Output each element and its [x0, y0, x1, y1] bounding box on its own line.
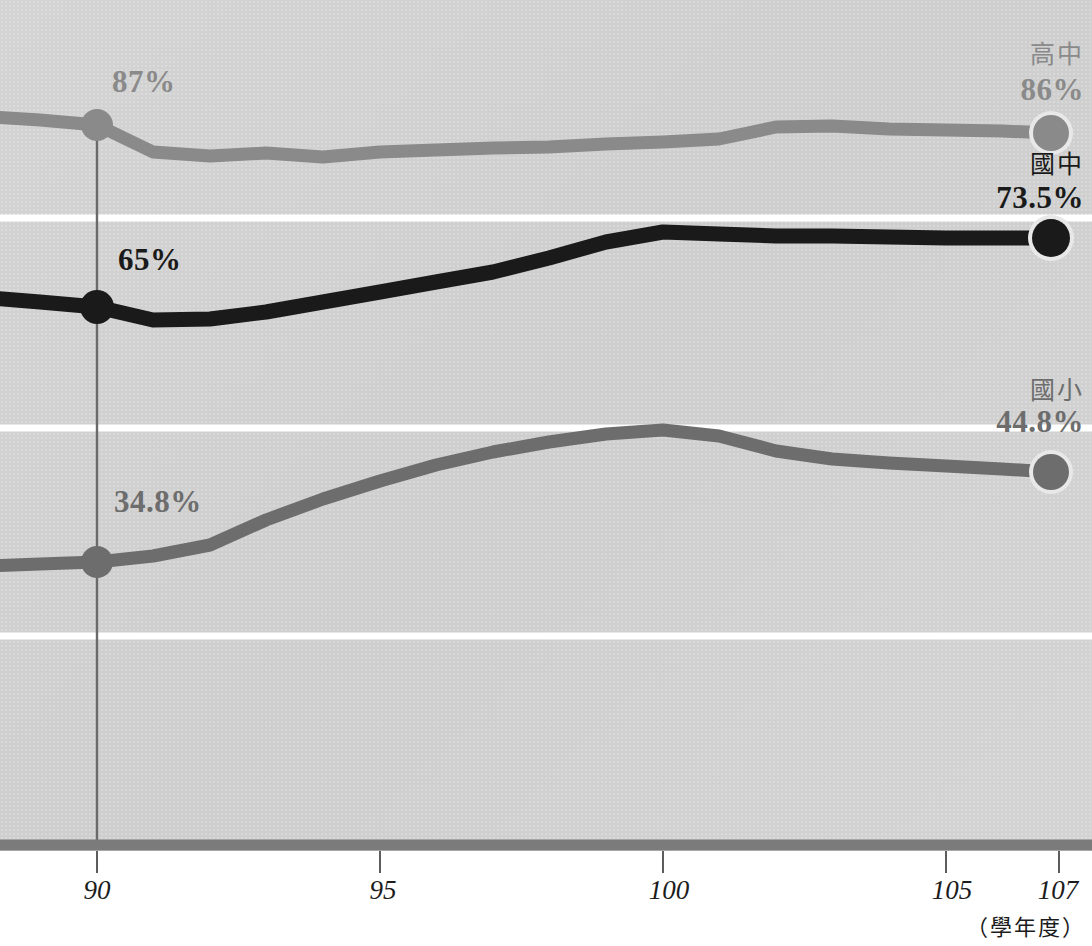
line-chart-svg: [0, 0, 1092, 851]
gridlines: [0, 218, 1092, 636]
x-tick-mark-107: [1058, 851, 1060, 873]
label-elementary-start-value: 34.8%: [114, 484, 202, 520]
x-tick-label-95: 95: [370, 875, 397, 906]
marker-junior-high-end[interactable]: [1032, 219, 1070, 257]
label-senior-high-series-name: 高中: [1030, 34, 1084, 70]
label-senior-high-end-value: 86%: [1021, 72, 1085, 108]
label-junior-high-end-value: 73.5%: [996, 180, 1084, 216]
label-elementary-end-value: 44.8%: [996, 404, 1084, 440]
marker-senior-high-start[interactable]: [81, 109, 113, 141]
x-tick-label-90: 90: [84, 875, 111, 906]
marker-elementary-end[interactable]: [1033, 454, 1069, 490]
label-junior-high-start-value: 65%: [118, 242, 182, 278]
x-tick-label-105: 105: [932, 875, 973, 906]
x-tick-mark-95: [379, 851, 381, 873]
label-junior-high-series-name: 國中: [1030, 144, 1084, 180]
x-tick-mark-100: [662, 851, 664, 873]
label-senior-high-start-value: 87%: [112, 64, 176, 100]
marker-junior-high-start[interactable]: [80, 290, 114, 324]
x-tick-label-100: 100: [649, 875, 690, 906]
x-axis-area: 90 95 100 105 107 （學年度）: [0, 851, 1092, 946]
x-axis-caption: （學年度）: [966, 909, 1086, 941]
series-line-senior-high: [0, 117, 1051, 157]
x-tick-mark-90: [96, 851, 98, 873]
x-tick-label-107: 107: [1038, 875, 1079, 906]
chart-page: 87% 65% 34.8% 高中 86% 國中 73.5% 國小 44.8% 9…: [0, 0, 1092, 946]
marker-elementary-start[interactable]: [81, 546, 113, 578]
plot-area: 87% 65% 34.8% 高中 86% 國中 73.5% 國小 44.8%: [0, 0, 1092, 851]
x-tick-mark-105: [945, 851, 947, 873]
label-elementary-series-name: 國小: [1030, 370, 1084, 406]
